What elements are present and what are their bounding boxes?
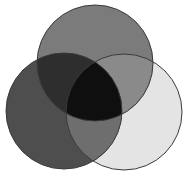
venn-diagram bbox=[0, 0, 189, 174]
venn-diagram-canvas bbox=[0, 0, 189, 174]
